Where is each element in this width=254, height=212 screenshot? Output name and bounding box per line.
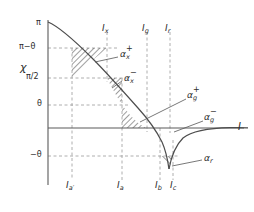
xtick-Ig: Ig bbox=[142, 24, 149, 34]
xtick-Ia-prime-sub: a′ bbox=[69, 184, 74, 192]
alpha-x-plus-region bbox=[72, 48, 107, 78]
alpha-g-plus-region bbox=[122, 105, 160, 128]
leader-lines bbox=[95, 57, 203, 166]
alpha-x-minus-sup: − bbox=[130, 69, 137, 77]
ytick-pi-minus-theta: π−θ bbox=[19, 43, 35, 51]
ytick-minus-theta: −θ bbox=[30, 151, 42, 159]
figure-canvas: χ I π π−θ π/2 θ −θ Ia′ Ia Ib Ic Ix Ig Ir… bbox=[0, 0, 254, 212]
leader-alpha-r bbox=[172, 160, 202, 166]
xtick-Ib-sub: b bbox=[158, 184, 162, 192]
chi-main-curve bbox=[48, 22, 169, 169]
alpha-g-plus-sup: + bbox=[193, 86, 200, 94]
xtick-Ic: Ic bbox=[170, 181, 176, 191]
xtick-Ix-sub: x bbox=[105, 27, 109, 35]
alpha-x-plus-sub: x bbox=[126, 53, 130, 61]
annotation-alpha-x-plus: αx+ bbox=[120, 50, 130, 60]
hatched-regions bbox=[72, 48, 173, 169]
xtick-Ig-sub: g bbox=[145, 27, 149, 35]
alpha-r-sub: r bbox=[210, 157, 213, 165]
annotation-alpha-g-minus: αg− bbox=[204, 113, 214, 123]
xtick-Ib: Ib bbox=[155, 181, 162, 191]
xtick-Ia-sub: a bbox=[120, 184, 124, 192]
xtick-Ix: Ix bbox=[102, 24, 109, 34]
x-axis-title: I bbox=[238, 122, 241, 132]
alpha-x-plus-sup: + bbox=[126, 45, 133, 53]
ytick-theta: θ bbox=[37, 100, 42, 108]
ytick-pi-over-2: π/2 bbox=[26, 73, 39, 81]
xtick-Ir: Ir bbox=[165, 24, 170, 34]
xtick-Ic-sub: c bbox=[173, 184, 177, 192]
y-guide-lines bbox=[48, 48, 178, 156]
xtick-Ia: Ia bbox=[117, 181, 124, 191]
annotation-alpha-x-minus: αx− bbox=[124, 74, 134, 84]
annotation-alpha-g-plus: αg+ bbox=[187, 91, 197, 101]
alpha-x-minus-sub: x bbox=[130, 77, 134, 85]
xtick-Ia-prime: Ia′ bbox=[66, 181, 74, 191]
leader-alpha-x-plus bbox=[95, 57, 118, 62]
annotation-alpha-r: αr bbox=[204, 154, 213, 164]
alpha-g-minus-sub: g bbox=[210, 116, 214, 124]
alpha-g-plus-sub: g bbox=[193, 94, 197, 102]
leader-alpha-g-minus bbox=[174, 121, 203, 132]
ytick-pi: π bbox=[36, 19, 41, 27]
alpha-g-minus-sup: − bbox=[210, 108, 217, 116]
xtick-Ir-sub: r bbox=[168, 27, 171, 35]
